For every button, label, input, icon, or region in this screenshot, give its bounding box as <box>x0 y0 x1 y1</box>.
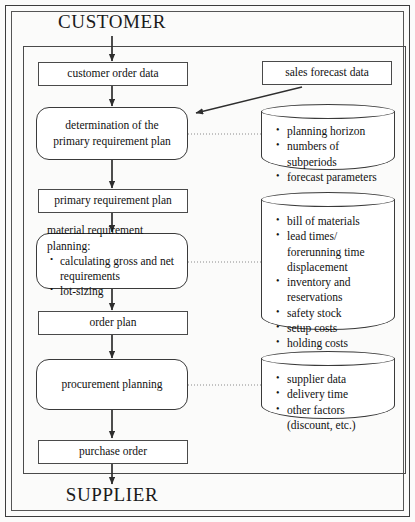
cylinder-top-ellipse <box>261 104 395 119</box>
node-material-requirement-planning[interactable]: material requirement planning: calculati… <box>36 233 188 289</box>
list-item: forecast parameters <box>287 170 391 185</box>
mrp-item-list: calculating gross and net requirements l… <box>47 254 181 299</box>
node-label: primary requirement plan <box>54 194 172 208</box>
node-label: customer order data <box>67 67 158 81</box>
node-label-line1: determination of the <box>65 119 158 131</box>
node-label: purchase order <box>79 445 147 459</box>
list-item: lead times/ forerunning time displacemen… <box>287 229 391 275</box>
node-purchase-order[interactable]: purchase order <box>38 440 188 464</box>
node-label-header: material requirement planning: <box>47 223 181 253</box>
list-item: inventory and reservations <box>287 275 391 306</box>
customer-heading: CUSTOMER <box>36 11 188 33</box>
diagram-canvas: CUSTOMER SUPPLIER customer order data sa… <box>0 0 415 522</box>
list-item: calculating gross and net requirements <box>60 254 181 284</box>
datastore-supplier-data[interactable]: supplier data delivery time other factor… <box>261 351 395 419</box>
list-item: delivery time <box>287 387 391 402</box>
list-item: planning horizon <box>287 124 391 139</box>
node-determination-primary-requirement-plan[interactable]: determination of the primary requirement… <box>36 107 188 160</box>
node-label-line2: primary requirement plan <box>53 135 171 147</box>
list-item: bill of materials <box>287 214 391 229</box>
node-sales-forecast-data[interactable]: sales forecast data <box>262 61 392 85</box>
node-label: procurement planning <box>61 377 162 392</box>
datastore-content: supplier data delivery time other factor… <box>261 372 395 433</box>
cylinder-top-ellipse <box>261 351 395 366</box>
node-label: sales forecast data <box>285 66 369 80</box>
cylinder-top-ellipse <box>261 192 395 207</box>
list-item: setup costs <box>287 321 391 336</box>
datastore-forecast-parameters[interactable]: planning horizon numbers of subperiods f… <box>261 104 395 170</box>
datastore-content: planning horizon numbers of subperiods f… <box>261 124 395 185</box>
list-item: safety stock <box>287 306 391 321</box>
node-order-plan[interactable]: order plan <box>38 311 188 335</box>
list-item: holding costs <box>287 336 391 351</box>
list-item: other factors (discount, etc.) <box>287 403 391 434</box>
node-primary-requirement-plan[interactable]: primary requirement plan <box>38 189 188 213</box>
node-customer-order-data[interactable]: customer order data <box>38 62 188 86</box>
list-item: lot-sizing <box>60 284 181 299</box>
list-item: numbers of subperiods <box>287 139 391 170</box>
datastore-item-list: planning horizon numbers of subperiods f… <box>261 124 395 185</box>
node-label: order plan <box>90 316 137 330</box>
supplier-heading: SUPPLIER <box>36 484 188 506</box>
datastore-content: bill of materials lead times/ forerunnin… <box>261 214 395 352</box>
datastore-item-list: supplier data delivery time other factor… <box>261 372 395 433</box>
node-procurement-planning[interactable]: procurement planning <box>36 359 188 410</box>
datastore-material-data[interactable]: bill of materials lead times/ forerunnin… <box>261 192 395 330</box>
datastore-item-list: bill of materials lead times/ forerunnin… <box>261 214 395 352</box>
list-item: supplier data <box>287 372 391 387</box>
